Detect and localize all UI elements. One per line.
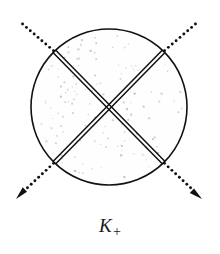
figure-label-subscript: + bbox=[113, 224, 121, 239]
figure-label: K+ bbox=[0, 216, 220, 239]
figure-container: K+ bbox=[0, 0, 220, 254]
figure-label-base: K bbox=[99, 215, 112, 236]
